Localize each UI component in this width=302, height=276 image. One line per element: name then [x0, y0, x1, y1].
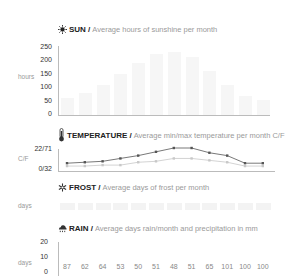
frost-cell [96, 203, 111, 210]
rain-tick: 20 [26, 238, 48, 245]
frost-subtitle: Average days of frost per month [103, 183, 210, 192]
rain-precip-label: 65 [200, 263, 218, 270]
rain-precip-label: 53 [111, 263, 129, 270]
temperature-lines [0, 0, 302, 276]
frost-cell [167, 203, 182, 210]
frost-heading: FROST / [69, 183, 101, 192]
rain-precip-label: 100 [236, 263, 254, 270]
frost-title: FROST / Average days of frost per month [58, 183, 209, 192]
frost-cell [220, 203, 235, 210]
frost-cell [185, 203, 200, 210]
rain-y-axis [58, 242, 59, 276]
rain-precip-label: 87 [58, 263, 76, 270]
rain-precip-label: 51 [147, 263, 165, 270]
frost-cell [256, 203, 271, 210]
rain-tick: 0 [26, 268, 48, 275]
frost-unit-label: days [18, 202, 32, 209]
frost-cell [78, 203, 93, 210]
frost-cell [60, 203, 75, 210]
rain-precip-label: 50 [129, 263, 147, 270]
rain-unit-label: days [18, 259, 32, 266]
rain-precip-label: 101 [218, 263, 236, 270]
frost-cell [238, 203, 253, 210]
frost-cell [149, 203, 164, 210]
rain-subtitle: Average days rain/month and precipitatio… [95, 224, 258, 233]
rain-precip-label: 64 [94, 263, 112, 270]
rain-cloud-icon [58, 224, 67, 233]
rain-title: RAIN / Average days rain/month and preci… [58, 224, 258, 233]
rain-tick: 10 [26, 253, 48, 260]
frost-cell [202, 203, 217, 210]
rain-precip-label: 100 [254, 263, 272, 270]
rain-precip-label: 62 [76, 263, 94, 270]
rain-heading: RAIN / [69, 224, 93, 233]
rain-precip-label: 51 [183, 263, 201, 270]
snowflake-icon [58, 183, 67, 192]
frost-cell [113, 203, 128, 210]
frost-cell [131, 203, 146, 210]
rain-precip-label: 48 [165, 263, 183, 270]
